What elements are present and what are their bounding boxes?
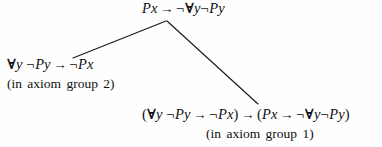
variable-y: y	[156, 106, 163, 122]
predicate-px: Px	[262, 106, 278, 122]
conclusion-formula: Px→¬∀y¬Py	[142, 0, 225, 18]
negation-symbol: ¬	[176, 0, 185, 16]
universal-quantifier-icon: ∀	[7, 57, 16, 72]
predicate-py: Py	[209, 0, 225, 16]
main-implication-arrow: →	[238, 107, 257, 122]
negation-symbol: ¬	[209, 106, 218, 122]
proof-tree-figure: Px→¬∀y¬Py ∀y ¬Py→¬Px (in axiom group 2) …	[0, 0, 382, 147]
premise-left-formula: ∀y ¬Py→¬Px	[7, 56, 115, 74]
close-paren: )	[345, 106, 350, 122]
node-premise-left: ∀y ¬Py→¬Px (in axiom group 2)	[7, 56, 115, 92]
negation-symbol: ¬	[26, 56, 35, 72]
variable-y: y	[16, 56, 23, 72]
implication-arrow: →	[158, 1, 177, 16]
implication-arrow: →	[277, 107, 296, 122]
node-conclusion: Px→¬∀y¬Py	[142, 0, 225, 18]
universal-quantifier-icon: ∀	[147, 107, 156, 122]
variable-y: y	[194, 0, 201, 16]
premise-left-annotation: (in axiom group 2)	[7, 76, 115, 92]
universal-quantifier-icon: ∀	[185, 1, 194, 16]
implication-arrow: →	[51, 57, 70, 72]
node-premise-right: (∀y ¬Py→¬Px)→(Px→¬∀y¬Py) (in axiom group…	[142, 106, 350, 142]
predicate-px: Px	[78, 56, 94, 72]
predicate-py: Py	[175, 106, 191, 122]
predicate-px: Px	[142, 0, 158, 16]
negation-symbol: ¬	[69, 56, 78, 72]
premise-right-formula: (∀y ¬Py→¬Px)→(Px→¬∀y¬Py)	[142, 106, 350, 124]
negation-symbol: ¬	[166, 106, 175, 122]
premise-right-annotation: (in axiom group 1)	[142, 126, 350, 142]
universal-quantifier-icon: ∀	[305, 107, 314, 122]
implication-arrow: →	[191, 107, 210, 122]
predicate-px: Px	[218, 106, 234, 122]
predicate-py: Py	[329, 106, 345, 122]
predicate-py: Py	[35, 56, 51, 72]
edge-to-right-premise-line	[167, 21, 258, 104]
negation-symbol: ¬	[201, 0, 210, 16]
edge-to-left-premise-line	[73, 21, 166, 58]
negation-symbol: ¬	[296, 106, 305, 122]
negation-symbol: ¬	[320, 106, 329, 122]
